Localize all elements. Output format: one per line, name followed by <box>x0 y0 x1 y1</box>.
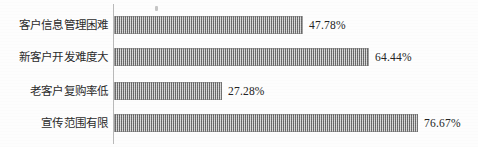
category-label-3: 宣传范围有限 <box>0 114 108 132</box>
category-label-0: 客户信息管理困难 <box>0 16 108 34</box>
value-label-3: 76.67% <box>424 114 461 132</box>
value-label-2: 27.28% <box>228 82 265 100</box>
bar-chart: 客户信息管理困难 47.78% 新客户开发难度大 64.44% 老客户复购率低 … <box>0 0 478 147</box>
bar-row: 客户信息管理困难 47.78% <box>0 16 478 34</box>
bar-0 <box>114 16 303 34</box>
value-label-0: 47.78% <box>309 16 346 34</box>
value-label-1: 64.44% <box>375 48 412 66</box>
bar-row: 新客户开发难度大 64.44% <box>0 48 478 66</box>
category-label-2: 老客户复购率低 <box>0 82 108 100</box>
bar-1 <box>114 48 369 66</box>
bar-row: 宣传范围有限 76.67% <box>0 114 478 132</box>
scan-artifact-speck <box>155 6 158 11</box>
category-label-1: 新客户开发难度大 <box>0 48 108 66</box>
bar-3 <box>114 114 418 132</box>
bar-row: 老客户复购率低 27.28% <box>0 82 478 100</box>
bar-2 <box>114 82 222 100</box>
